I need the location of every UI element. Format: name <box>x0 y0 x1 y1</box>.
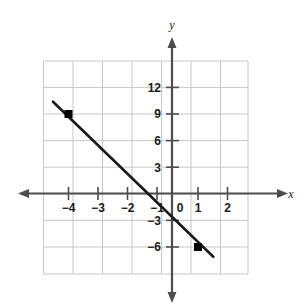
x-tick-label: −4 <box>62 201 76 215</box>
y-axis-label: y <box>168 18 175 32</box>
grid-lines <box>44 61 249 274</box>
y-tick-label: 3 <box>154 161 161 175</box>
x-tick-label: −2 <box>121 201 135 215</box>
y-tick-label: −3 <box>147 214 161 228</box>
graph-canvas: −4 −3 −2 −1 0 1 2 12 9 6 3 −3 −6 x y <box>0 0 306 308</box>
origin-label: 0 <box>177 201 184 215</box>
x-axis-right-arrow <box>277 189 288 198</box>
x-axis-left-arrow <box>18 189 29 198</box>
data-point-marker <box>194 243 202 251</box>
y-tick-label: 12 <box>148 81 162 95</box>
x-axis-label: x <box>287 187 294 201</box>
plot-line <box>53 102 213 257</box>
x-tick-label: 2 <box>224 201 231 215</box>
y-axis-top-arrow <box>168 37 177 48</box>
data-point-marker <box>65 110 73 118</box>
y-tick-label: 9 <box>154 107 161 121</box>
x-tick-label: 1 <box>195 201 202 215</box>
y-axis-bottom-arrow <box>168 292 177 303</box>
coordinate-graph: −4 −3 −2 −1 0 1 2 12 9 6 3 −3 −6 x y <box>0 0 306 308</box>
x-tick-label: −3 <box>91 201 105 215</box>
y-tick-label: −6 <box>147 240 161 254</box>
y-tick-label: 6 <box>154 134 161 148</box>
y-axis <box>168 37 177 303</box>
